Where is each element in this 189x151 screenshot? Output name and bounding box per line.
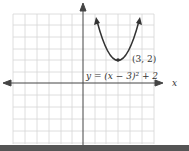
graph: (3, 2) y = (x − 3)² + 2 x [0,0,189,151]
x-axis-label: x [172,78,177,88]
vertex-point [116,58,120,62]
vertex-label: (3, 2) [132,54,156,64]
bottom-bar [0,145,189,151]
equation-label: y = (x − 3)² + 2 [85,71,158,81]
